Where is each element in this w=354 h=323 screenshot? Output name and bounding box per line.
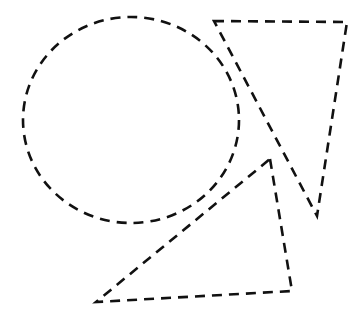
- shapes-svg: [0, 0, 354, 323]
- dashed-circle: [23, 17, 239, 223]
- dashed-inverted-triangle: [214, 21, 347, 216]
- diagram-canvas: [0, 0, 354, 323]
- dashed-lower-triangle: [96, 159, 292, 302]
